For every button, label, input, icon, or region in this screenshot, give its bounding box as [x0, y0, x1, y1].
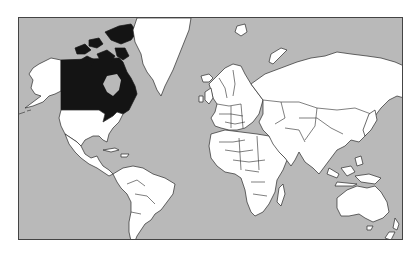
- region-greenland: [133, 18, 191, 96]
- region-iceland: [201, 74, 213, 82]
- region-south-america: [113, 166, 175, 240]
- region-uk-ireland: [199, 88, 213, 104]
- region-alaska: [25, 58, 61, 108]
- region-aleutians: [19, 110, 31, 114]
- world-map: [18, 17, 403, 240]
- region-europe: [209, 64, 263, 130]
- region-new-zealand: [385, 218, 399, 240]
- region-caribbean: [103, 148, 129, 157]
- region-australia: [337, 186, 389, 222]
- region-canada-arctic-islands: [75, 24, 137, 66]
- region-southeast-asia-islands: [327, 156, 381, 186]
- region-svalbard: [235, 24, 247, 36]
- world-map-svg: [19, 18, 403, 240]
- region-novaya-zemlya: [269, 48, 287, 64]
- region-tasmania: [367, 226, 373, 230]
- region-madagascar: [277, 184, 285, 206]
